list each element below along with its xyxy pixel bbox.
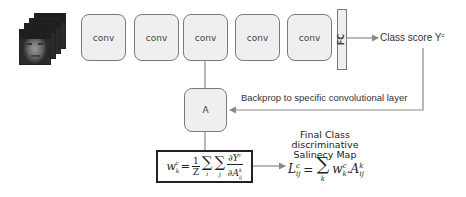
activation-box: A	[184, 88, 227, 132]
saliency-formula: Lcij = ∑ k wkc.Akij	[288, 155, 364, 185]
class-score-label: Class score Yc	[380, 32, 445, 43]
fc-layer: FC	[337, 9, 347, 70]
class-score-text: Class score Y	[380, 32, 442, 43]
conv-layer-4: conv	[235, 14, 280, 61]
backprop-label: Backprop to specific convolutional layer	[241, 92, 407, 103]
conv-label: conv	[195, 33, 217, 43]
conv-layer-3: conv	[183, 14, 228, 61]
conv-layer-5: conv	[287, 14, 332, 61]
conv-layer-2: conv	[134, 14, 179, 61]
conv-layer-1: conv	[81, 14, 126, 61]
fc-label: FC	[338, 34, 347, 45]
conv-label: conv	[146, 33, 168, 43]
weight-formula-box: wkc = 1 Z ∑ i ∑ j ∂Yc ∂Akij	[156, 150, 253, 183]
activation-label: A	[202, 105, 208, 115]
conv-label: conv	[247, 33, 269, 43]
weight-formula: wkc = 1 Z ∑ i ∑ j ∂Yc ∂Akij	[166, 150, 242, 183]
conv-label: conv	[299, 33, 321, 43]
conv-label: conv	[93, 33, 115, 43]
face-frame-1	[19, 29, 51, 65]
class-score-superscript: c	[442, 32, 445, 38]
